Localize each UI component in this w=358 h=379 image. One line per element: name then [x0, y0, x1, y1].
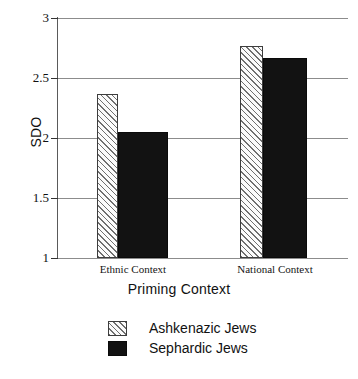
y-tick-mark-1 [51, 258, 58, 259]
legend-row-ashkenazic: Ashkenazic Jews [108, 318, 256, 338]
x-axis-title: Priming Context [0, 281, 358, 297]
bar-chart-figure: 3 2.5 2 1.5 1 Ethnic Context National Co… [0, 0, 358, 379]
legend-row-sephardic: Sephardic Jews [108, 338, 256, 358]
legend-label-ashkenazic: Ashkenazic Jews [149, 320, 256, 336]
legend-label-sephardic: Sephardic Jews [149, 340, 248, 356]
legend-swatch-hatched-icon [108, 321, 127, 336]
chart-legend: Ashkenazic Jews Sephardic Jews [108, 318, 256, 358]
y-axis-title: SDO [28, 104, 44, 160]
bar-sephardic-national [263, 58, 307, 258]
bar-ashkenazic-ethnic [97, 94, 118, 258]
y-tick-label-2-5: 2.5 [33, 71, 49, 84]
y-tick-label-3: 3 [43, 11, 50, 24]
y-tick-label-1: 1 [43, 251, 50, 264]
bar-ashkenazic-national [240, 46, 263, 258]
y-tick-label-1-5: 1.5 [33, 191, 49, 204]
legend-swatch-solid-icon [108, 341, 127, 356]
y-tick-mark-3 [51, 18, 58, 19]
x-tick-label-national-context: National Context [215, 263, 335, 275]
x-tick-label-ethnic-context: Ethnic Context [73, 263, 193, 275]
y-tick-mark-2 [51, 138, 58, 139]
y-tick-mark-1-5 [51, 198, 58, 199]
bar-sephardic-ethnic [118, 132, 168, 258]
y-tick-mark-2-5 [51, 78, 58, 79]
gridline-1 [58, 258, 348, 259]
plot-area [58, 18, 348, 258]
